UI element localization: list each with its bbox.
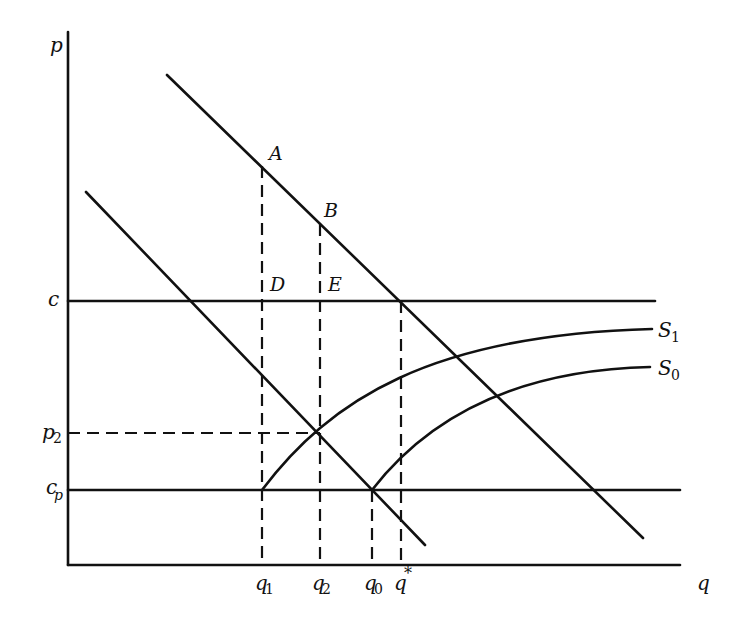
svg-text:0: 0 xyxy=(374,581,383,597)
supply-curve-s1 xyxy=(262,329,652,490)
supply-demand-diagram: p q c p 2 c p q 1 q 2 q 0 q * A B D E S … xyxy=(0,0,745,624)
svg-text:2: 2 xyxy=(53,430,62,446)
qstar-label: q * xyxy=(394,564,412,595)
svg-text:p: p xyxy=(54,487,63,503)
svg-text:S: S xyxy=(658,356,672,380)
y-axis-label: p xyxy=(50,33,63,57)
q0-label: q 0 xyxy=(364,571,383,597)
svg-text:2: 2 xyxy=(322,581,331,597)
svg-text:S: S xyxy=(658,318,672,342)
q1-label: q 1 xyxy=(255,571,274,597)
svg-text:1: 1 xyxy=(671,329,680,345)
s0-label: S 0 xyxy=(658,356,680,383)
point-a-label: A xyxy=(267,142,283,164)
svg-text:0: 0 xyxy=(671,367,680,383)
point-b-label: B xyxy=(323,199,338,221)
svg-text:1: 1 xyxy=(265,581,274,597)
point-d-label: D xyxy=(269,273,285,295)
svg-text:*: * xyxy=(404,564,412,583)
upper-demand-line xyxy=(167,75,643,538)
q2-label: q 2 xyxy=(312,571,331,597)
s1-label: S 1 xyxy=(658,318,680,345)
lower-demand-line xyxy=(86,192,425,545)
c-label: c xyxy=(48,287,59,311)
point-e-label: E xyxy=(327,273,342,295)
p2-label: p 2 xyxy=(42,420,62,446)
x-axis-label: q xyxy=(697,571,710,595)
supply-curve-s0 xyxy=(372,367,650,490)
cp-label: c p xyxy=(46,475,63,503)
